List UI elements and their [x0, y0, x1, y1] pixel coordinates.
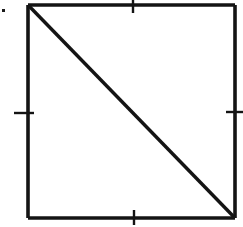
figure-canvas — [0, 0, 243, 227]
scan-speck — [2, 9, 5, 12]
line-drawing — [0, 0, 243, 227]
figure-background — [0, 0, 243, 227]
